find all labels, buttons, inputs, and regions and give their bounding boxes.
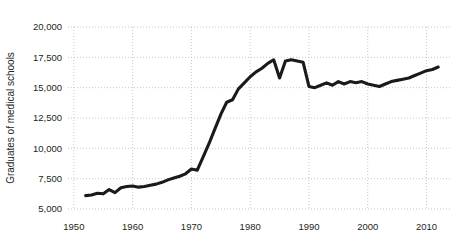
y-axis-tick-label: 12,500 <box>33 112 62 123</box>
y-axis-tick-labels: 5,0007,50010,00012,50015,00017,50020,000 <box>33 21 62 214</box>
x-axis-tick-label: 1970 <box>181 221 202 232</box>
x-axis-tick-label: 2000 <box>357 221 378 232</box>
y-axis-title-text: Graduates of medical schools <box>5 52 16 184</box>
y-axis-tick-label: 10,000 <box>33 143 62 154</box>
y-axis-tick-label: 20,000 <box>33 21 62 32</box>
horizontal-gridlines <box>68 27 450 209</box>
x-axis-tick-label: 1960 <box>122 221 143 232</box>
y-axis-tick-label: 17,500 <box>33 52 62 63</box>
x-axis-tick-label: 2010 <box>416 221 437 232</box>
line-chart-figure: 5,0007,50010,00012,50015,00017,50020,000… <box>0 0 462 248</box>
chart-plot-area: 5,0007,50010,00012,50015,00017,50020,000… <box>0 0 462 248</box>
x-axis-tick-labels: 1950196019701980199020002010 <box>63 221 437 232</box>
y-axis-tick-label: 5,000 <box>38 203 62 214</box>
y-axis-title: Graduates of medical schools <box>5 52 16 184</box>
x-axis-tick-label: 1950 <box>63 221 84 232</box>
y-axis-tick-label: 15,000 <box>33 82 62 93</box>
x-axis-tick-label: 1980 <box>240 221 261 232</box>
data-series-line <box>86 60 439 196</box>
x-axis-tick-label: 1990 <box>298 221 319 232</box>
y-axis-tick-label: 7,500 <box>38 173 62 184</box>
vertical-gridlines <box>74 27 427 209</box>
